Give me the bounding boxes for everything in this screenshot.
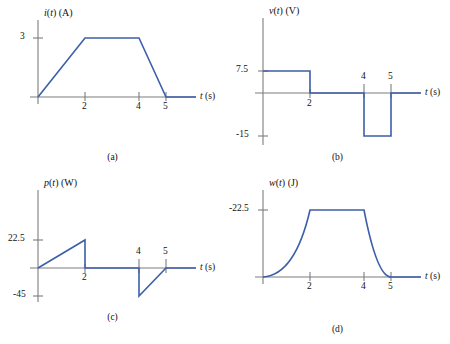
waveform-trace — [263, 71, 421, 136]
panel-a-plot — [0, 0, 225, 172]
y-axis-symbol: i — [44, 7, 47, 18]
x-tick-label-4: 4 — [361, 282, 366, 292]
waveform-trace — [263, 210, 421, 277]
x-tick-label-4: 4 — [361, 72, 366, 82]
waveform-trace — [38, 38, 196, 97]
y-axis-title: w(t) (J) — [269, 178, 298, 188]
y-axis-symbol: w — [269, 177, 276, 188]
y-axis-symbol: v — [269, 5, 273, 16]
y-tick-label-neg22.5: -22.5 — [229, 204, 249, 214]
panel-c: p(t) (W) 22.5 -45 2 4 5 t (s) (c) — [0, 172, 225, 344]
panel-d: w(t) (J) -22.5 2 4 5 t (s) (d) — [225, 172, 450, 344]
y-tick-label-7.5: 7.5 — [236, 65, 248, 75]
panel-caption-a: (a) — [0, 152, 225, 162]
y-tick-label-neg45: -45 — [13, 290, 26, 300]
x-tick-label-2: 2 — [307, 99, 312, 109]
y-tick-label-neg15: -15 — [236, 130, 249, 140]
x-axis-title: t (s) — [425, 88, 440, 98]
y-axis-title: i(t) (A) — [44, 8, 73, 18]
panel-b-plot — [225, 0, 450, 172]
panel-caption-b: (b) — [225, 152, 450, 162]
x-tick-label-5: 5 — [163, 102, 168, 112]
y-axis-title: p(t) (W) — [44, 178, 77, 188]
y-axis-unit: (W) — [61, 177, 77, 188]
x-tick-label-2: 2 — [82, 102, 87, 112]
x-tick-label-5: 5 — [388, 72, 393, 82]
y-axis-unit: (J) — [288, 177, 299, 188]
waveform-figure: i(t) (A) 3 2 4 5 t (s) (a) v(t) (V) 7.5 … — [0, 0, 450, 344]
y-axis-unit: (V) — [285, 5, 299, 16]
x-tick-label-4: 4 — [136, 247, 141, 257]
y-axis-title: v(t) (V) — [269, 6, 299, 16]
x-tick-label-5: 5 — [388, 282, 393, 292]
panel-d-plot — [225, 172, 450, 344]
y-tick-label-22.5: 22.5 — [8, 234, 25, 244]
panel-caption-d: (d) — [225, 324, 450, 334]
x-tick-label-2: 2 — [307, 282, 312, 292]
panel-caption-c: (c) — [0, 312, 225, 322]
x-tick-label-2: 2 — [82, 273, 87, 283]
x-axis-title: t (s) — [200, 263, 215, 273]
y-tick-label-3: 3 — [20, 32, 25, 42]
x-tick-label-4: 4 — [136, 102, 141, 112]
panel-a: i(t) (A) 3 2 4 5 t (s) (a) — [0, 0, 225, 172]
y-axis-symbol: p — [44, 177, 49, 188]
x-tick-label-5: 5 — [163, 247, 168, 257]
x-axis-title: t (s) — [425, 272, 440, 282]
x-axis-title: t (s) — [200, 92, 215, 102]
y-axis-unit: (A) — [59, 7, 73, 18]
panel-b: v(t) (V) 7.5 -15 2 4 5 t (s) (b) — [225, 0, 450, 172]
